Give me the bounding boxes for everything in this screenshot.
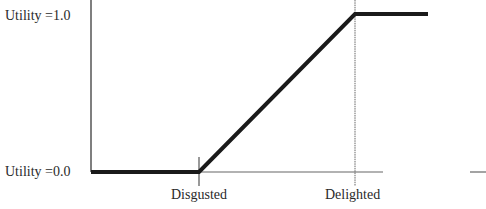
utility-curve bbox=[91, 14, 428, 172]
x-label-disgusted: Disgusted bbox=[171, 187, 227, 203]
y-label-utility-min: Utility =0.0 bbox=[5, 164, 70, 180]
y-label-utility-max: Utility =1.0 bbox=[5, 8, 70, 24]
x-label-delighted: Delighted bbox=[325, 187, 380, 203]
utility-chart bbox=[0, 0, 486, 209]
